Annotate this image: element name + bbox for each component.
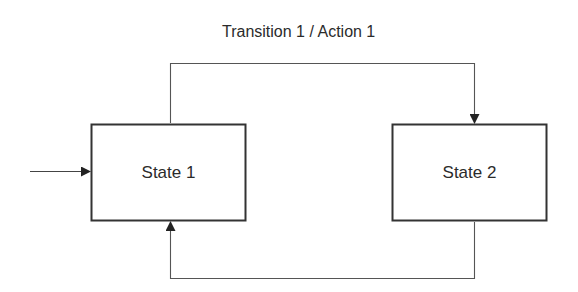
return-transition-arrow bbox=[171, 222, 475, 279]
transition-1-arrow bbox=[171, 64, 475, 124]
state-1-label: State 1 bbox=[91, 124, 246, 221]
state-2-label: State 2 bbox=[392, 124, 547, 221]
transition-label: Transition 1 / Action 1 bbox=[222, 23, 375, 41]
